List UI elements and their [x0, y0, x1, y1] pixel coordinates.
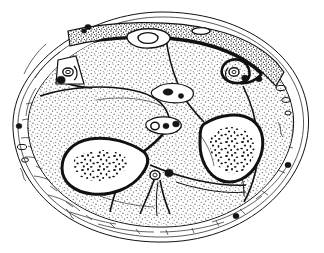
central-vein-upper-b	[178, 94, 183, 99]
peroneal-vein	[242, 75, 249, 81]
perforating-vein-left	[16, 123, 22, 128]
anatomy-figure: Transverse cross-section of the lower le…	[0, 0, 324, 253]
nv-bundle-central-mid	[146, 117, 182, 134]
gsv-lumen	[138, 33, 158, 44]
great-saphenous-vein	[127, 29, 170, 48]
small-saphenous-vein	[192, 28, 210, 35]
peroneal-artery-lumen	[232, 70, 236, 73]
perforating-vein-upperright	[256, 76, 262, 82]
perforating-vein-band-left	[81, 29, 86, 33]
anterior-tibial-artery-lumen	[66, 70, 71, 73]
perforating-vein-right	[285, 162, 291, 168]
central-vein-mid-a	[163, 123, 169, 129]
anterior-tibial-vein	[57, 76, 65, 84]
posterior-tibial-vein	[165, 169, 173, 177]
central-vein-upper	[163, 89, 173, 95]
cross-section-illustration	[0, 0, 324, 253]
posterior-tibial-artery-lumen	[153, 173, 157, 177]
central-artery-mid	[151, 122, 159, 130]
perforating-vein-topleft	[85, 24, 91, 29]
perforating-vein-bottom	[233, 213, 239, 219]
cutaneous-ring-left-a	[17, 144, 26, 149]
central-vein-mid-b	[173, 121, 180, 127]
